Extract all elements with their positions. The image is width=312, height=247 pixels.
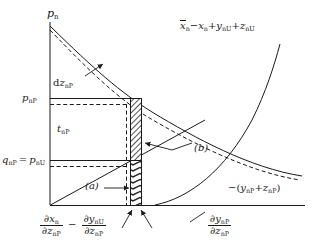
demand-curve-dashed (50, 30, 300, 180)
bottom-arrow-right (141, 210, 152, 228)
frac-dynU-dznP: ∂ynU ∂znP (82, 214, 106, 238)
leader-b-tail (172, 143, 192, 150)
upper-right-curve-label: xn−xn+ynU+znU (180, 20, 255, 32)
dznP-label: dznP (53, 78, 73, 89)
bottom-arrow-left (122, 210, 132, 228)
hatched-block-b (131, 99, 142, 161)
callout-b-label: (b) (194, 143, 208, 153)
leader-b (145, 143, 172, 150)
diagram-graphics (0, 0, 312, 247)
bottom-left-expression: ∂xn ∂znP − ∂ynU ∂znP (40, 214, 106, 238)
tnP-label: tnP (57, 124, 69, 135)
qnP-label: qnP=pnU (2, 155, 45, 166)
frac-dxn-dznP: ∂xn ∂znP (40, 214, 63, 238)
supply-line (51, 120, 206, 205)
lower-right-curve-label: −(ynP+znP) (228, 183, 280, 194)
demand-curve-solid (50, 26, 302, 176)
bottom-arrow-right-tail (190, 212, 205, 222)
y-axis-label: pn (47, 8, 59, 20)
pnP-label: pnP (22, 93, 37, 104)
hatched-block-a (131, 161, 142, 206)
bottom-right-expression: ∂ynP ∂znP (208, 214, 231, 238)
figure-canvas: pn xn−xn+ynU+znU dznP pnP tnP qnP=pnU (b… (0, 0, 312, 247)
frac-dynP-dznP: ∂ynP ∂znP (208, 214, 231, 238)
callout-a-label: (a) (85, 181, 99, 191)
